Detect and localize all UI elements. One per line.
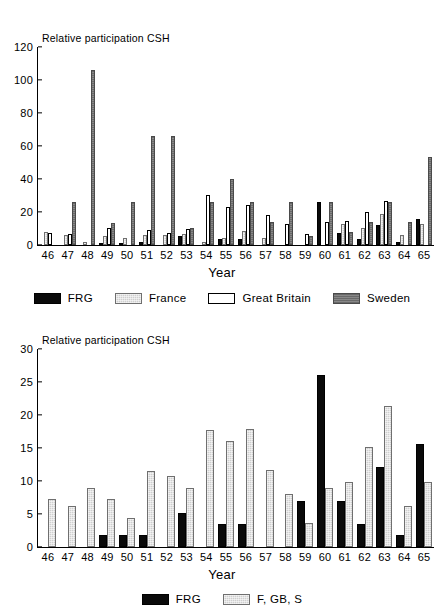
bar-group-51 [137,349,157,547]
legend-label-sweden: Sweden [367,292,410,304]
x-axis-tick-label: 47 [58,249,78,261]
bar-f-gb-s-60 [325,488,333,547]
bar-frg-55 [218,524,226,547]
bar-group-65 [414,47,434,245]
bar-sweden-49 [111,223,115,245]
y-axis-tick-mark [38,46,42,47]
y-axis-tick-mark [38,546,42,547]
legend-item-fgbs[interactable]: F, GB, S [223,593,302,605]
bar-france-50 [123,238,127,245]
x-axis-tick-label: 52 [157,249,177,261]
x-axis-tick-label: 46 [38,551,58,563]
bar-group-59 [295,349,315,547]
bar-frg-56 [238,524,246,547]
legend-label-fgbs: F, GB, S [257,593,302,605]
y-axis-tick-mark [38,79,42,80]
bar-f-gb-s-57 [266,470,274,547]
bar-group-54 [196,47,216,245]
x-axis-tick-label: 64 [394,249,414,261]
x-axis-tick-label: 61 [335,551,355,563]
bar-f-gb-s-52 [167,476,175,547]
bar-f-gb-s-65 [424,482,432,547]
bar-f-gb-s-62 [365,447,373,547]
bar-group-54 [196,349,216,547]
x-axis-tick-label: 61 [335,249,355,261]
plot-area-top: 020406080100120 [38,47,434,245]
bar-group-52 [157,349,177,547]
y-axis-tick-mark [38,348,42,349]
y-axis-tick-label: 15 [20,442,38,454]
bar-group-47 [58,349,78,547]
x-axis-tick-label: 56 [236,551,256,563]
legend-label-gb: Great Britain [242,292,310,304]
y-axis-tick-mark [38,178,42,179]
bar-group-58 [276,47,296,245]
bar-sweden-60 [329,202,333,245]
bar-group-63 [375,349,395,547]
bar-group-51 [137,47,157,245]
legend-swatch-frg-icon [142,594,169,605]
bar-sweden-51 [151,136,155,245]
x-axis-tick-label: 57 [256,249,276,261]
x-axis-tick-label: 55 [216,551,236,563]
bar-group-60 [315,349,335,547]
x-axis-tick-label: 62 [355,551,375,563]
bar-f-gb-s-64 [404,506,412,547]
x-axis-tick-label: 48 [78,551,98,563]
x-axis-tick-label: 51 [137,249,157,261]
bar-group-61 [335,349,355,547]
bar-group-52 [157,47,177,245]
y-axis-title: Relative participation CSH [42,334,170,346]
bar-group-53 [177,349,197,547]
y-axis-tick-label: 40 [20,173,38,185]
bar-france-48 [83,242,87,245]
bar-sweden-63 [388,202,392,245]
legend-item-frg[interactable]: FRG [34,292,93,304]
x-axis-tick-label: 58 [276,249,296,261]
legend-swatch-france-icon [115,293,142,304]
chart-figure-top: Relative participation CSH 0204060801001… [0,0,444,318]
x-axis-tick-label: 63 [375,551,395,563]
x-axis-tick-label: 58 [276,551,296,563]
y-axis-tick-mark [38,244,42,245]
bar-sweden-65 [428,157,432,245]
y-axis-tick-mark [38,513,42,514]
bar-group-49 [97,349,117,547]
legend-top: FRGFranceGreat BritainSweden [0,292,444,304]
bar-sweden-55 [230,179,234,245]
x-axis-tick-label: 65 [414,551,434,563]
bar-sweden-62 [369,222,373,245]
legend-item-frg[interactable]: FRG [142,593,201,605]
bar-group-53 [177,47,197,245]
bar-sweden-53 [190,228,194,245]
bar-f-gb-s-56 [246,429,254,547]
bar-group-47 [58,47,78,245]
y-axis-tick-mark [38,447,42,448]
bar-group-container [38,47,434,245]
legend-item-sweden[interactable]: Sweden [333,292,410,304]
bar-f-gb-s-54 [206,430,214,547]
bar-group-55 [216,47,236,245]
bar-f-gb-s-63 [384,406,392,547]
bar-sweden-48 [91,70,95,245]
bar-sweden-64 [408,222,412,245]
x-axis-tick-label: 53 [177,551,197,563]
x-axis-tick-label: 46 [38,249,58,261]
bar-f-gb-s-46 [48,499,56,547]
x-axis-tick-label: 57 [256,551,276,563]
y-axis-tick-label: 80 [20,107,38,119]
x-axis-tick-label: 54 [196,249,216,261]
bar-frg-61 [337,501,345,547]
bar-group-48 [78,349,98,547]
x-axis-tick-label: 59 [295,249,315,261]
x-axis-tick-label: 60 [315,249,335,261]
legend-item-gb[interactable]: Great Britain [208,292,310,304]
y-axis-tick-label: 10 [20,475,38,487]
bar-sweden-54 [210,202,214,245]
x-axis-tick-labels: 4647484950515253545556575859606162636465 [38,551,434,563]
bar-group-55 [216,349,236,547]
x-axis-tick-label: 56 [236,249,256,261]
legend-item-france[interactable]: France [115,292,187,304]
bar-frg-60 [317,375,325,547]
legend-swatch-frg-icon [34,293,61,304]
